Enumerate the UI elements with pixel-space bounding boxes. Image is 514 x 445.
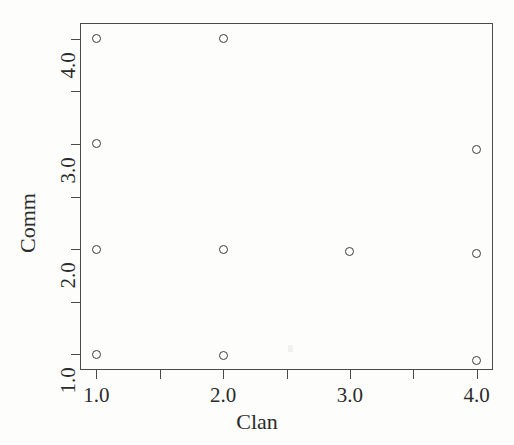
x-axis-tick [160, 370, 161, 379]
y-axis-tick [71, 302, 80, 303]
y-axis-tick-label: 2.0 [56, 262, 81, 288]
data-point [219, 245, 228, 254]
x-axis-tick-label: 2.0 [210, 383, 236, 408]
data-point [92, 245, 101, 254]
y-axis-title-text: Comm [15, 193, 41, 253]
scan-artifact [288, 345, 293, 352]
y-axis-tick [71, 39, 80, 40]
y-axis-tick-label: 1.0 [56, 367, 81, 393]
y-axis-tick [71, 197, 80, 198]
data-point [219, 351, 228, 360]
data-point [92, 34, 101, 43]
y-axis-title: Comm [14, 0, 42, 445]
data-point [219, 34, 228, 43]
x-axis-title: Clan [0, 409, 514, 435]
data-point [472, 249, 481, 258]
data-point [92, 139, 101, 148]
data-point [472, 356, 481, 365]
y-axis-tick [71, 144, 80, 145]
x-axis-title-text: Clan [236, 409, 278, 434]
x-axis-tick-label: 1.0 [83, 383, 109, 408]
x-axis-tick-label: 4.0 [463, 383, 489, 408]
x-axis-tick [287, 370, 288, 379]
y-axis-tick [71, 91, 80, 92]
x-axis-tick [477, 370, 478, 379]
data-point [472, 145, 481, 154]
y-axis-tick [71, 249, 80, 250]
scatter-plot-figure: Comm 1.02.03.04.01.02.03.04.0 Clan [0, 0, 514, 445]
x-axis-tick [223, 370, 224, 379]
y-axis-tick-label: 4.0 [56, 52, 81, 78]
x-axis-tick [350, 370, 351, 379]
x-axis-tick-label: 3.0 [337, 383, 363, 408]
x-axis-tick [413, 370, 414, 379]
plot-area: 1.02.03.04.01.02.03.04.0 [80, 23, 493, 370]
y-axis-tick-label: 3.0 [56, 157, 81, 183]
x-axis-tick [96, 370, 97, 379]
data-point [345, 247, 354, 256]
y-axis-tick [71, 354, 80, 355]
data-point [92, 350, 101, 359]
